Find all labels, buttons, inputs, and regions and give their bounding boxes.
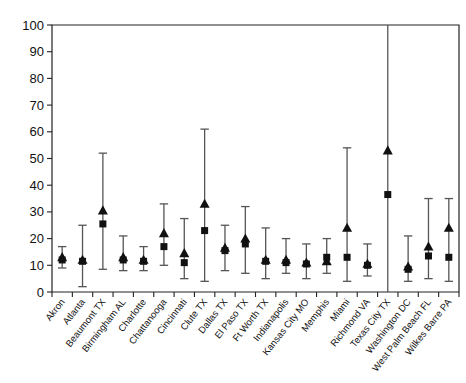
data-point-square bbox=[181, 259, 188, 266]
error-bar bbox=[404, 236, 412, 281]
data-point-triangle bbox=[98, 205, 108, 214]
data-point-triangle bbox=[342, 223, 352, 232]
y-tick-label: 50 bbox=[30, 151, 44, 166]
data-point-square bbox=[160, 243, 167, 250]
data-point-square bbox=[221, 247, 228, 254]
data-point-square bbox=[364, 262, 371, 269]
error-bar bbox=[261, 228, 269, 279]
data-marker-group bbox=[57, 145, 454, 273]
data-point-square bbox=[283, 259, 290, 266]
y-tick-label: 90 bbox=[30, 44, 44, 59]
y-tick-label: 80 bbox=[30, 71, 44, 86]
data-point-square bbox=[201, 227, 208, 234]
data-point-square bbox=[384, 191, 391, 198]
x-axis-label-group: AkronAtlantaBeaumont TXBirmingham ALChar… bbox=[43, 296, 454, 374]
error-bar bbox=[445, 199, 453, 282]
data-point-triangle bbox=[159, 228, 169, 237]
data-point-square bbox=[242, 240, 249, 247]
data-point-triangle bbox=[423, 241, 433, 250]
y-axis: 0102030405060708090100 bbox=[22, 18, 52, 300]
error-bar bbox=[343, 148, 351, 282]
error-bar-group bbox=[58, 25, 453, 292]
data-point-square bbox=[323, 254, 330, 261]
data-point-square bbox=[99, 220, 106, 227]
plot-border bbox=[52, 25, 459, 292]
y-tick-label: 0 bbox=[37, 285, 44, 300]
data-point-square bbox=[79, 258, 86, 265]
data-point-triangle bbox=[383, 145, 393, 154]
y-tick-label: 60 bbox=[30, 124, 44, 139]
data-point-square bbox=[59, 256, 66, 263]
y-tick-label: 100 bbox=[22, 18, 44, 33]
data-point-square bbox=[405, 266, 412, 273]
data-point-square bbox=[262, 258, 269, 265]
data-point-square bbox=[303, 260, 310, 267]
x-axis bbox=[52, 292, 459, 297]
y-tick-label: 10 bbox=[30, 258, 44, 273]
data-point-square bbox=[344, 254, 351, 261]
y-tick-label: 40 bbox=[30, 178, 44, 193]
plot-frame bbox=[52, 25, 459, 292]
chart-container: 0102030405060708090100 AkronAtlantaBeaum… bbox=[0, 0, 466, 383]
error-bar bbox=[424, 199, 432, 279]
y-tick-label: 70 bbox=[30, 98, 44, 113]
y-tick-label: 30 bbox=[30, 204, 44, 219]
data-point-square bbox=[445, 254, 452, 261]
data-point-triangle bbox=[179, 248, 189, 257]
scatter-chart: 0102030405060708090100 AkronAtlantaBeaum… bbox=[0, 0, 466, 383]
data-point-square bbox=[140, 258, 147, 265]
data-point-triangle bbox=[444, 223, 454, 232]
data-point-square bbox=[425, 252, 432, 259]
data-point-triangle bbox=[200, 199, 210, 208]
y-tick-label: 20 bbox=[30, 231, 44, 246]
data-point-square bbox=[120, 256, 127, 263]
